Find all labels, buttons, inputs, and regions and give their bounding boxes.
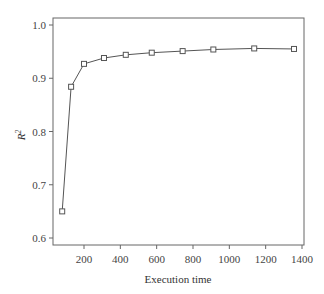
line-chart: 0.60.70.80.91.0 200400600800100012001400…: [0, 0, 324, 294]
data-point-marker: [292, 46, 297, 51]
data-point-marker: [60, 209, 65, 214]
x-tick-label: 1400: [291, 253, 314, 265]
data-point-marker: [149, 50, 154, 55]
y-axis: 0.60.70.80.91.0: [32, 19, 53, 244]
y-tick-label: 0.6: [32, 232, 46, 244]
x-axis: 200400600800100012001400: [76, 245, 314, 265]
data-point-marker: [101, 56, 106, 61]
y-tick-label: 0.8: [32, 126, 46, 138]
y-axis-title: R2: [14, 130, 27, 142]
y-tick-label: 0.9: [32, 72, 46, 84]
x-tick-label: 600: [148, 253, 165, 265]
data-point-marker: [123, 52, 128, 57]
x-tick-label: 1200: [255, 253, 278, 265]
y-tick-label: 1.0: [32, 19, 46, 31]
data-point-marker: [69, 84, 74, 89]
x-tick-label: 200: [76, 253, 93, 265]
series-line: [62, 48, 294, 211]
plot-frame: [53, 18, 304, 245]
data-point-marker: [211, 47, 216, 52]
y-tick-label: 0.7: [32, 179, 46, 191]
data-point-marker: [252, 46, 257, 51]
data-point-marker: [82, 61, 87, 66]
x-axis-title: Execution time: [145, 273, 212, 285]
data-point-marker: [180, 49, 185, 54]
x-tick-label: 800: [185, 253, 202, 265]
data-series: [60, 46, 297, 214]
x-tick-label: 1000: [218, 253, 241, 265]
x-tick-label: 400: [112, 253, 129, 265]
